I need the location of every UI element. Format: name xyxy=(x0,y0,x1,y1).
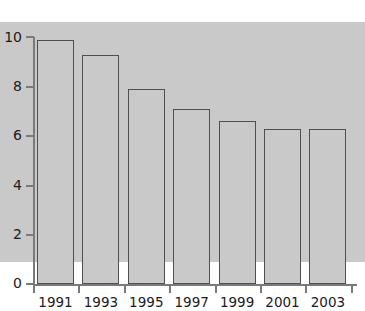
x-tick-mark xyxy=(33,285,35,293)
y-tick-label-6: 6 xyxy=(0,128,22,142)
x-tick-mark xyxy=(78,285,80,293)
y-tick-label-4: 4 xyxy=(0,178,22,192)
bar-2001 xyxy=(264,129,301,285)
y-tick-label-0: 0 xyxy=(0,276,22,290)
x-tick-label-1997: 1997 xyxy=(172,296,212,310)
bar-1993 xyxy=(82,55,119,285)
x-tick-label-1991: 1991 xyxy=(36,296,76,310)
bar-chart: 10 8 6 4 2 0 1991 1993 1995 1997 1999 20… xyxy=(0,22,365,262)
x-tick-mark xyxy=(305,285,307,293)
x-tick-mark xyxy=(260,285,262,293)
x-tick-mark xyxy=(169,285,171,293)
y-axis-line xyxy=(33,37,35,285)
x-tick-label-2001: 2001 xyxy=(263,296,303,310)
y-tick-label-10: 10 xyxy=(0,30,22,44)
y-tick-mark xyxy=(26,185,34,187)
bar-1997 xyxy=(173,109,210,284)
bar-1991 xyxy=(37,40,74,285)
y-tick-mark xyxy=(26,135,34,137)
bar-2003 xyxy=(309,129,346,284)
bar-1999 xyxy=(219,121,256,284)
x-tick-mark xyxy=(124,285,126,293)
x-tick-label-1995: 1995 xyxy=(126,296,166,310)
y-tick-mark xyxy=(26,36,34,38)
x-tick-mark xyxy=(351,285,353,293)
x-tick-label-1993: 1993 xyxy=(81,296,121,310)
x-axis-line xyxy=(33,284,357,286)
y-tick-label-2: 2 xyxy=(0,227,22,241)
y-tick-label-8: 8 xyxy=(0,79,22,93)
y-tick-mark xyxy=(26,86,34,88)
y-tick-mark xyxy=(26,234,34,236)
x-tick-label-1999: 1999 xyxy=(217,296,257,310)
x-tick-label-2003: 2003 xyxy=(308,296,348,310)
x-tick-mark xyxy=(215,285,217,293)
plot-area: 10 8 6 4 2 0 1991 1993 1995 1997 1999 20… xyxy=(0,22,365,311)
bar-1995 xyxy=(128,89,165,284)
